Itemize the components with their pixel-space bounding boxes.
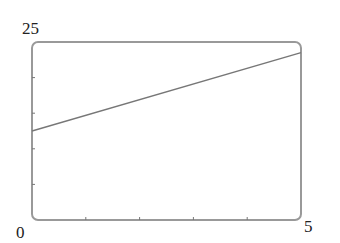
data-line (32, 53, 301, 131)
plot-area (0, 0, 340, 243)
line-chart: 25 0 5 (0, 0, 340, 243)
plot-frame (32, 42, 301, 220)
x-max-label: 5 (304, 218, 313, 235)
y-max-label: 25 (22, 20, 39, 37)
origin-label: 0 (16, 224, 25, 241)
